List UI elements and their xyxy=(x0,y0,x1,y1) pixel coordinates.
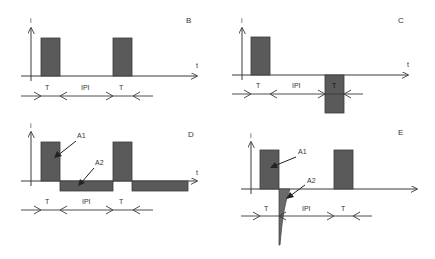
dimension-line xyxy=(21,206,153,214)
x-axis-label: t xyxy=(196,62,198,69)
annotation-label-a1: A1 xyxy=(77,132,86,139)
pulse-2 xyxy=(113,38,132,76)
y-axis-label: i xyxy=(30,122,32,129)
pulse-1 xyxy=(41,142,60,181)
dimension-label-ipi: IPI xyxy=(81,84,90,91)
pulse-1 xyxy=(260,150,279,189)
pulse-waveform-diagram: i t B T IPI T i t C T xyxy=(0,0,435,259)
dimension-label-t2: T xyxy=(119,198,124,205)
panel-label: D xyxy=(188,130,194,139)
reverse-phase-2 xyxy=(132,181,188,191)
panel-label: E xyxy=(398,128,403,137)
x-axis-label: t xyxy=(196,169,198,176)
dimension-label-t1: T xyxy=(45,84,50,91)
dimension-label-ipi: IPI xyxy=(82,198,91,205)
panel-d: i t D A1 A2 T IPI T xyxy=(21,122,198,214)
panel-b: i t B T IPI T xyxy=(21,16,198,100)
panel-c: i t C T IPI T xyxy=(232,16,409,113)
dimension-line xyxy=(21,92,153,100)
dimension-label-t2: T xyxy=(119,84,124,91)
dimension-label-t2: T xyxy=(332,82,337,89)
dimension-label-t2: T xyxy=(341,205,346,212)
y-axis-label: i xyxy=(30,17,32,24)
annotation-label-a2: A2 xyxy=(307,177,316,184)
annotation-label-a1: A1 xyxy=(298,148,307,155)
pulse-1 xyxy=(41,38,60,76)
dimension-label-ipi: IPI xyxy=(302,205,311,212)
pulse-2 xyxy=(334,150,353,189)
reverse-phase-1 xyxy=(60,181,113,191)
y-axis-label: i xyxy=(241,17,243,24)
dimension-line xyxy=(241,212,372,220)
pulse-2 xyxy=(113,142,132,181)
dimension-label-t1: T xyxy=(256,82,261,89)
pulse-positive xyxy=(251,37,270,75)
annotation-a2: A2 xyxy=(286,177,316,199)
panel-e: i E A1 A2 T IPI T xyxy=(241,128,417,245)
panel-label: C xyxy=(398,16,404,25)
dimension-label-ipi: IPI xyxy=(292,82,301,89)
panel-label: B xyxy=(186,16,191,25)
dimension-label-t1: T xyxy=(45,198,50,205)
dimension-label-t1: T xyxy=(264,205,269,212)
annotation-label-a2: A2 xyxy=(95,159,104,166)
y-axis-label: i xyxy=(250,132,252,139)
x-axis-label: t xyxy=(407,61,409,68)
